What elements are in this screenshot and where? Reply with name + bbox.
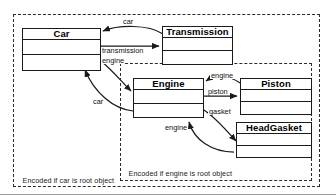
class-operations-car [23, 55, 100, 70]
class-name-piston: Piston [241, 79, 311, 90]
class-name-transmission: Transmission [163, 27, 232, 38]
class-attributes-transmission [163, 38, 232, 52]
scope-caption-car: Encoded if car is root object [21, 176, 116, 185]
class-box-headgasket[interactable]: HeadGasket [236, 122, 312, 158]
edge-label-gasket: gasket [208, 108, 232, 115]
edge-label-car-middle: car [92, 98, 104, 105]
class-attributes-car [23, 40, 100, 56]
class-box-engine[interactable]: Engine [133, 78, 204, 118]
edge-label-engine-from-headgasket: engine [164, 124, 188, 131]
edge-label-piston: piston [207, 88, 229, 95]
class-operations-transmission [163, 51, 232, 64]
class-name-headgasket: HeadGasket [237, 123, 311, 134]
edge-label-car-top: car [122, 18, 134, 25]
class-attributes-piston [241, 90, 311, 103]
class-operations-piston [241, 102, 311, 114]
edge-label-engine-from-piston: engine [210, 72, 234, 79]
edge-label-transmission: transmission [101, 47, 144, 54]
class-attributes-engine [134, 90, 203, 104]
class-box-piston[interactable]: Piston [240, 78, 312, 115]
class-box-car[interactable]: Car [22, 28, 101, 71]
scope-caption-engine: Encoded if engine is root object [127, 169, 234, 178]
class-operations-headgasket [237, 146, 311, 157]
class-name-engine: Engine [134, 79, 203, 90]
edge-label-engine-from-car: engine [101, 57, 125, 64]
class-attributes-headgasket [237, 134, 311, 146]
class-operations-engine [134, 104, 203, 117]
class-box-transmission[interactable]: Transmission [162, 26, 233, 65]
class-name-car: Car [23, 29, 100, 40]
figure-base-rule [0, 194, 336, 195]
diagram-canvas: Car Transmission Engine Piston HeadGaske… [0, 0, 336, 195]
